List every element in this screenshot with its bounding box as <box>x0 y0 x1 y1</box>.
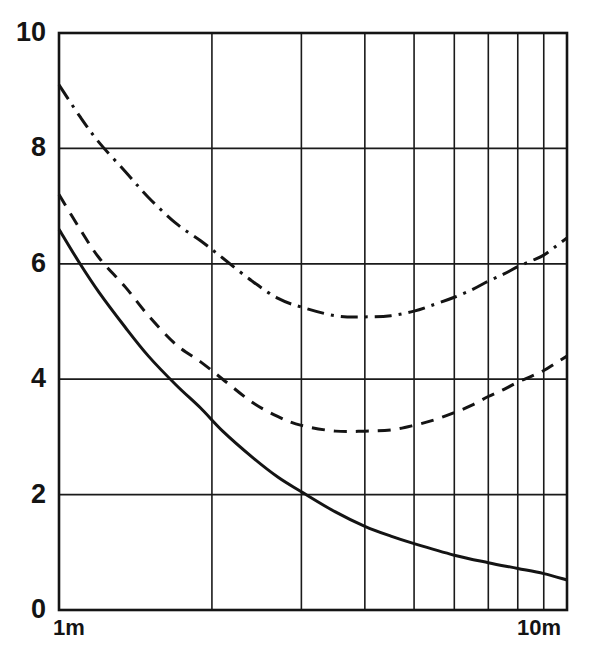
series-line-dashed-curve <box>59 195 567 432</box>
y-axis-tick-label: 8 <box>2 134 46 161</box>
x-minor-gridlines <box>212 33 544 610</box>
y-axis-tick-label: 4 <box>2 365 46 392</box>
y-axis-tick-label: 2 <box>2 481 46 508</box>
series-line-solid-curve <box>59 229 567 580</box>
y-gridlines <box>59 148 567 494</box>
x-axis-tick-label-start: 1m <box>53 617 85 639</box>
chart-figure: 0 2 4 6 8 10 1m 10m <box>0 0 599 653</box>
series-line-dash-dot-curve <box>59 85 567 317</box>
data-series-layer <box>59 85 567 580</box>
y-axis-tick-label: 0 <box>2 596 46 623</box>
chart-plot-area <box>0 0 599 653</box>
y-axis-tick-label: 10 <box>2 19 46 46</box>
x-axis-tick-label-end: 10m <box>517 617 561 639</box>
y-axis-tick-label: 6 <box>2 250 46 277</box>
plot-frame <box>59 33 567 610</box>
